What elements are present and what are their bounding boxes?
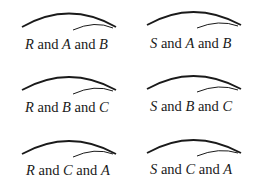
brace-arcs-icon [0, 64, 136, 128]
grouping-cell-s-a-b: S and A and B [136, 0, 272, 64]
grouping-cell-r-c-a: R and C and A [0, 128, 136, 192]
grouping-label: R and A and B [25, 37, 108, 52]
grouping-cell-s-b-c: S and B and C [136, 64, 272, 128]
grouping-label: S and A and B [150, 36, 231, 51]
brace-arcs-icon [0, 0, 136, 64]
grouping-label: R and C and A [26, 163, 110, 178]
grouping-label: R and B and C [25, 100, 109, 115]
grouping-label: S and B and C [150, 99, 232, 114]
brace-arcs-icon [136, 0, 272, 64]
brace-arcs-icon [0, 128, 136, 192]
grouping-cell-r-a-b: R and A and B [0, 0, 136, 64]
brace-arcs-icon [136, 64, 272, 128]
grouping-cell-r-b-c: R and B and C [0, 64, 136, 128]
grouping-cell-s-c-a: S and C and A [136, 128, 272, 192]
grouping-label: S and C and A [150, 162, 232, 177]
brace-arcs-icon [136, 128, 272, 192]
